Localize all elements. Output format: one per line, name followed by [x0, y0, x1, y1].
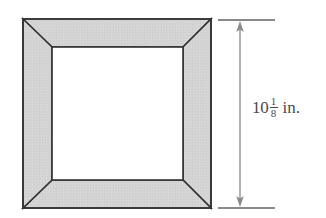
frame-left-rail [23, 19, 52, 208]
frame-opening [52, 47, 183, 180]
dimension-label: 10 1 8 in. [252, 96, 300, 119]
dimension-fraction: 1 8 [270, 96, 278, 119]
frame-right-rail [183, 19, 211, 208]
fraction-denominator: 8 [270, 108, 278, 119]
frame-top-rail [23, 19, 211, 47]
dimension-whole-number: 10 [252, 99, 269, 116]
picture-frame-figure: 10 1 8 in. [0, 0, 326, 218]
fraction-numerator: 1 [270, 96, 278, 107]
frame-bottom-rail [23, 180, 211, 208]
dimension-unit: in. [283, 99, 300, 116]
